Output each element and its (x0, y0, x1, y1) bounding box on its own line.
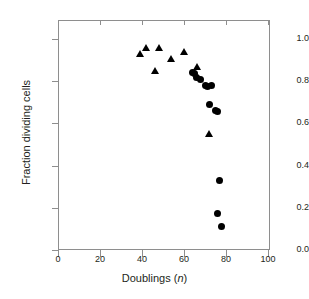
data-point-circle (208, 82, 215, 89)
y-axis-tick (52, 208, 59, 209)
x-axis-tick-label: 0 (43, 254, 73, 264)
x-axis-title-text: Doublings ( (122, 272, 178, 284)
y-axis-tick (52, 81, 59, 82)
x-axis-title-close: ) (184, 272, 188, 284)
y-axis-tick-label: 0.8 (263, 76, 309, 85)
x-axis-top-tick (184, 20, 185, 25)
y-axis-tick (52, 39, 59, 40)
data-point-triangle (205, 130, 213, 137)
y-axis-tick (52, 123, 59, 124)
data-point-circle (214, 210, 221, 217)
y-axis-tick-label: 0.4 (263, 161, 309, 170)
plot-area-frame (58, 20, 270, 250)
data-point-triangle (155, 44, 163, 51)
y-axis-title: Fraction dividing cells (20, 33, 33, 233)
y-axis-tick-label: 0.2 (263, 203, 309, 212)
x-axis-top-tick (268, 20, 269, 25)
data-point-triangle (136, 50, 144, 57)
x-axis-tick-label: 100 (253, 254, 283, 264)
y-axis-tick-label: 1.0 (263, 34, 309, 43)
y-axis-tick-label: 0.0 (263, 245, 309, 254)
data-point-triangle (151, 67, 159, 74)
x-axis-title: Doublings (n) (0, 272, 309, 285)
x-axis-tick-label: 20 (85, 254, 115, 264)
data-point-triangle (142, 44, 150, 51)
x-axis-top-tick (100, 20, 101, 25)
y-axis-tick (52, 166, 59, 167)
x-axis-tick-label: 40 (127, 254, 157, 264)
data-point-triangle (167, 55, 175, 62)
data-point-circle (206, 101, 213, 108)
data-point-triangle (180, 48, 188, 55)
x-axis-top-tick (58, 20, 59, 25)
x-axis-tick-label: 80 (211, 254, 241, 264)
scatter-chart-figure: 0.00.20.40.60.81.0 020406080100 Doubling… (0, 0, 309, 299)
x-axis-top-tick (226, 20, 227, 25)
x-axis-tick-label: 60 (169, 254, 199, 264)
x-axis-top-tick (142, 20, 143, 25)
y-axis-tick-label: 0.6 (263, 118, 309, 127)
